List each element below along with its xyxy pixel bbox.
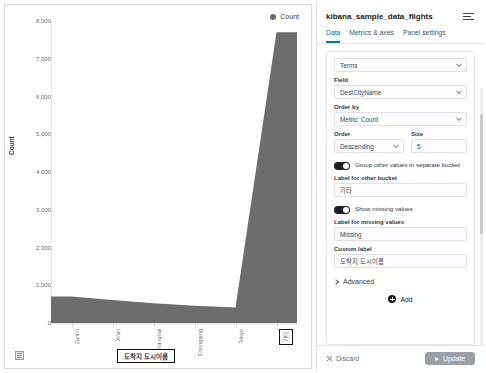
bucket-config-form: Terms Field DestCityName Order by Metric… [326, 51, 475, 345]
order-by-value: Metric: Count [340, 116, 378, 123]
y-axis-tick-label: 7,000 [17, 56, 51, 62]
visualization-options-panel: kibana_sample_data_flights Data Metrics … [316, 2, 484, 371]
panel-tabs: Data Metrics & axes Panel settings [317, 27, 484, 44]
order-value: Descending [340, 143, 374, 150]
other-bucket-label: Label for other bucket [334, 175, 467, 181]
size-label: Size [411, 131, 467, 137]
chevron-down-icon [456, 88, 462, 94]
panel-scrollbar[interactable] [480, 88, 483, 345]
show-missing-values-label: Show missing values [355, 205, 413, 213]
missing-values-label: Label for missing values [334, 219, 467, 225]
visualization-pane: Count Count 8,0007,0006,0005,0004,0003,0… [4, 4, 312, 369]
x-axis-tick-label[interactable]: Tokyo [238, 329, 244, 344]
tab-panel-settings[interactable]: Panel settings [403, 27, 446, 43]
panel-header: kibana_sample_data_flights [317, 2, 484, 27]
field-select[interactable]: DestCityName [334, 85, 467, 99]
add-label: Add [400, 296, 412, 303]
x-axis-tick-mark [277, 323, 278, 327]
x-axis-tick-mark [113, 323, 114, 327]
order-by-select[interactable]: Metric: Count [334, 112, 467, 126]
chevron-down-icon [456, 61, 462, 67]
x-axis-tick-mark [195, 323, 196, 327]
advanced-accordion[interactable]: Advanced [334, 278, 467, 285]
x-axis-tick-label[interactable]: Chongqing [197, 329, 203, 356]
add-bucket-button[interactable]: Add [334, 295, 467, 303]
close-icon [326, 356, 332, 362]
advanced-label: Advanced [343, 278, 374, 285]
y-axis-tick-label: 1,000 [17, 282, 51, 288]
area-chart-series [51, 21, 297, 323]
panel-body: Terms Field DestCityName Order by Metric… [317, 44, 484, 345]
plot-wrapper: Count 8,0007,0006,0005,0004,0003,0002,00… [5, 5, 313, 370]
order-select[interactable]: Descending [334, 139, 404, 153]
play-icon [435, 357, 439, 361]
y-axis-tick-label: 3,000 [17, 207, 51, 213]
chevron-down-icon [456, 115, 462, 121]
y-axis-title: Count [8, 136, 15, 155]
aggregation-value: Terms [340, 62, 357, 69]
discard-label: Discard [336, 355, 359, 362]
x-axis-tick-mark [236, 323, 237, 327]
x-axis-tick-mark [154, 323, 155, 327]
y-axis-tick-label: 8,000 [17, 18, 51, 24]
app-root: Count Count 8,0007,0006,0005,0004,0003,0… [0, 0, 486, 373]
data-table-toggle-icon[interactable] [15, 351, 24, 360]
update-label: Update [443, 355, 465, 362]
discard-button[interactable]: Discard [326, 355, 359, 362]
aggregation-select[interactable]: Terms [334, 58, 467, 72]
list-menu-icon[interactable] [463, 12, 475, 21]
y-axis-ticks: 8,0007,0006,0005,0004,0003,0002,0001,000… [17, 21, 51, 323]
group-other-values-row[interactable]: Group other values in separate bucket [334, 161, 467, 170]
field-value: DestCityName [340, 89, 381, 96]
other-bucket-input[interactable]: 기타 [334, 183, 467, 197]
custom-label-value: 도착지 도시이름 [340, 257, 384, 266]
order-label: Order [334, 131, 404, 137]
area-series-count [51, 32, 297, 323]
custom-label-input[interactable]: 도착지 도시이름 [334, 254, 467, 268]
size-input[interactable]: 5 [411, 139, 467, 153]
group-other-values-label: Group other values in separate bucket [355, 161, 460, 169]
size-value: 5 [417, 143, 421, 150]
panel-footer: Discard Update [317, 345, 484, 371]
missing-values-value: Missing [340, 231, 362, 238]
y-axis-tick-label: 0 [17, 320, 51, 326]
chevron-right-icon [333, 279, 339, 285]
tab-data[interactable]: Data [326, 27, 340, 43]
toggle-knob [343, 163, 350, 170]
tab-metrics-axes[interactable]: Metrics & axes [349, 27, 394, 43]
x-axis-tick-label[interactable]: Zurich [74, 329, 80, 345]
y-axis-tick-label: 5,000 [17, 131, 51, 137]
x-axis-tick-label[interactable]: 기타 [279, 329, 293, 345]
x-axis-title: 도착지 도시이름 [117, 349, 175, 363]
panel-title: kibana_sample_data_flights [326, 12, 433, 21]
show-missing-values-row[interactable]: Show missing values [334, 205, 467, 214]
custom-label-label: Custom label [334, 246, 467, 252]
plus-circle-icon [388, 295, 396, 303]
y-axis-tick-label: 4,000 [17, 169, 51, 175]
y-axis-tick-label: 2,000 [17, 245, 51, 251]
order-by-label: Order by [334, 104, 467, 110]
y-axis-tick-label: 6,000 [17, 94, 51, 100]
chevron-down-icon [393, 142, 399, 148]
x-axis-tick-label[interactable]: Xi'an [115, 329, 121, 341]
update-button[interactable]: Update [425, 352, 475, 365]
show-missing-values-toggle[interactable] [334, 206, 350, 215]
missing-values-input[interactable]: Missing [334, 227, 467, 241]
group-other-values-toggle[interactable] [334, 162, 350, 171]
field-label: Field [334, 77, 467, 83]
x-axis-tick-mark [72, 323, 73, 327]
other-bucket-value: 기타 [340, 186, 352, 195]
toggle-knob [343, 207, 350, 214]
